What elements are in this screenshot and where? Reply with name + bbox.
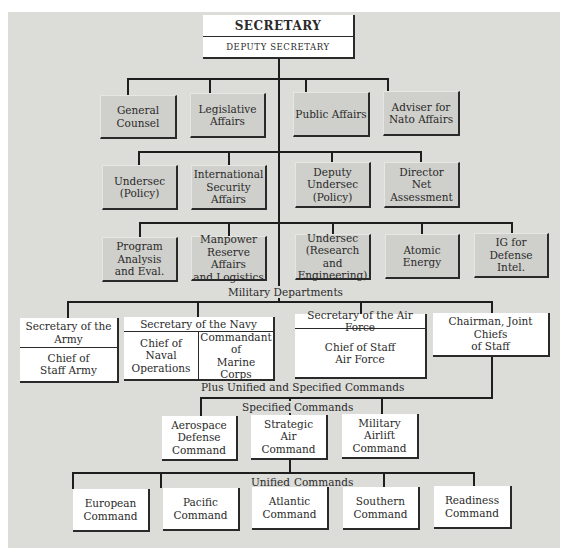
chief-staff-army: Chief of Staff Army <box>20 348 117 380</box>
military-departments-label: Military Departments <box>226 286 345 298</box>
node-atomic-energy: Atomic Energy <box>385 234 460 279</box>
node-military-airlift: Military Airlift Command <box>342 414 419 459</box>
connector-drop <box>491 301 493 313</box>
node-label: Atlantic Command <box>262 495 316 520</box>
specified-label-left: Specified <box>240 401 293 413</box>
node-label: Strategic Air Command <box>261 418 315 456</box>
connector-drop <box>72 472 74 489</box>
secretary-box: SECRETARY DEPUTY SECRETARY <box>203 15 355 59</box>
node-label: Public Affairs <box>295 108 366 121</box>
connector-drop <box>421 222 423 234</box>
node-label: Atomic Energy <box>386 244 458 269</box>
deputy-secretary: DEPUTY SECRETARY <box>203 37 353 57</box>
connector-drop <box>381 397 383 414</box>
node-label: Legislative Affairs <box>199 103 257 128</box>
connector-drop <box>197 301 199 317</box>
connector-drop <box>139 222 141 237</box>
plus-commands-label: Plus Unified and Specified Commands <box>199 381 406 393</box>
connector-row1-bar <box>127 78 389 80</box>
node-general-counsel: General Counsel <box>100 95 177 139</box>
node-director-net-assessment: Director Net Assessment <box>384 162 460 208</box>
specified-label-right: Commands <box>292 401 355 413</box>
node-label: Chairman, Joint Chiefs of Staff <box>433 315 548 353</box>
node-southern-command: Southern Command <box>343 487 420 530</box>
node-label: Manpower Reserve Affairs and Logistics <box>192 233 265 283</box>
connector-unified-bar <box>72 472 475 474</box>
connector-drop <box>200 397 202 416</box>
connector-drop <box>138 151 140 165</box>
node-label: Adviser for Nato Affairs <box>389 101 453 126</box>
node-strategic-air: Strategic Air Command <box>251 415 328 460</box>
chief-staff-air-force: Chief of Staff Air Force <box>295 329 425 377</box>
connector-military-bar <box>67 301 493 303</box>
connector-drop <box>387 78 389 91</box>
connector-drop <box>305 78 307 92</box>
node-label: Director Net Assessment <box>390 166 453 204</box>
connector-drop <box>127 78 129 95</box>
secretary-army: Secretary of the Army <box>20 318 117 348</box>
connector-drop <box>67 301 69 318</box>
node-manpower: Manpower Reserve Affairs and Logistics <box>191 236 267 281</box>
org-chart-panel <box>8 12 560 548</box>
node-nato-adviser: Adviser for Nato Affairs <box>383 91 460 136</box>
connector-drop <box>228 151 230 165</box>
node-label: Undersec (Policy) <box>114 175 165 200</box>
connector-drop <box>420 151 422 162</box>
connector-drop <box>331 151 333 162</box>
node-label: Readiness Command <box>445 494 499 519</box>
air-force-box: Secretary of the Air Force Chief of Staf… <box>295 314 427 379</box>
connector-trunk-main <box>278 58 280 302</box>
node-program-analysis: Program Analysis and Eval. <box>102 237 178 282</box>
node-label: Southern Command <box>353 495 407 520</box>
node-label: International Security Affairs <box>194 168 264 206</box>
node-european-command: European Command <box>73 489 150 532</box>
node-readiness-command: Readiness Command <box>434 486 512 529</box>
node-label: Aerospace Defense Command <box>171 419 227 457</box>
node-undersec-policy: Undersec (Policy) <box>102 165 178 210</box>
node-label: General Counsel <box>117 104 160 129</box>
connector-drop <box>209 78 211 93</box>
connector-drop <box>511 222 513 233</box>
connector-drop <box>473 472 475 486</box>
connector-drop <box>160 472 162 488</box>
node-pacific-command: Pacific Command <box>163 488 240 531</box>
connector-row3-bar <box>139 222 513 224</box>
node-aerospace-defense: Aerospace Defense Command <box>162 416 238 461</box>
secretary-title: SECRETARY <box>203 15 353 37</box>
connector-drop <box>383 472 385 487</box>
navy-box: Secretary of the Navy Chief of Naval Ope… <box>124 317 275 381</box>
node-label: Pacific Command <box>173 496 227 521</box>
connector-jcs-left <box>200 397 493 399</box>
node-label: Military Airlift Command <box>352 417 406 455</box>
army-box: Secretary of the Army Chief of Staff Arm… <box>20 318 119 383</box>
chief-naval-operations: Chief of Naval Operations <box>124 332 198 379</box>
node-undersec-research: Undersec (Research and Engineering) <box>295 234 371 280</box>
node-label: Deputy Undersec (Policy) <box>307 166 358 204</box>
node-label: Undersec (Research and Engineering) <box>296 232 369 282</box>
node-jcs-chairman: Chairman, Joint Chiefs of Staff <box>433 313 550 357</box>
node-label: IG for Defense Intel. <box>475 236 547 274</box>
connector-jcs-down <box>491 356 493 399</box>
node-atlantic-command: Atlantic Command <box>252 487 329 530</box>
node-label: European Command <box>83 497 137 522</box>
node-legislative-affairs: Legislative Affairs <box>190 93 266 138</box>
node-public-affairs: Public Affairs <box>293 92 370 137</box>
connector-row2-bar <box>138 151 422 153</box>
node-ig-defense-intel: IG for Defense Intel. <box>474 233 549 278</box>
node-label: Program Analysis and Eval. <box>115 240 165 278</box>
secretary-air-force: Secretary of the Air Force <box>295 314 425 329</box>
commandant-marine-corps: Commandant of Marine Corps <box>198 332 273 379</box>
node-deputy-undersec-policy: Deputy Undersec (Policy) <box>295 162 371 208</box>
node-intl-security-affairs: International Security Affairs <box>191 165 267 210</box>
